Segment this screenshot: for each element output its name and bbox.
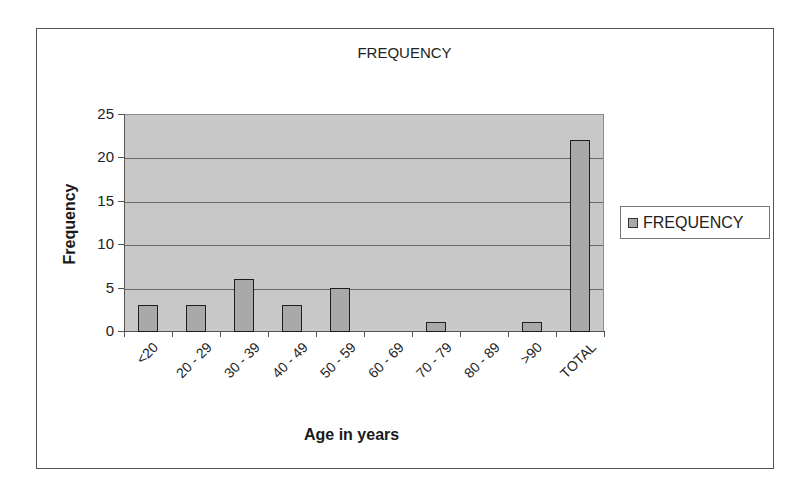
y-tick-label: 20 — [84, 149, 114, 165]
x-axis-title: Age in years — [304, 426, 399, 444]
bar — [426, 322, 446, 332]
x-tick — [316, 331, 317, 337]
y-tick — [118, 288, 124, 289]
bar — [138, 305, 158, 332]
x-tick — [604, 331, 605, 337]
x-tick — [220, 331, 221, 337]
y-tick-label: 25 — [84, 106, 114, 122]
gridline — [124, 202, 603, 203]
bar — [330, 288, 350, 332]
legend-label: FREQUENCY — [643, 214, 743, 232]
x-tick — [124, 331, 125, 337]
bar — [522, 322, 542, 332]
x-tick — [268, 331, 269, 337]
legend-swatch-icon — [628, 218, 638, 228]
legend: FREQUENCY — [620, 206, 770, 239]
bar — [570, 140, 590, 332]
gridline — [124, 289, 603, 290]
y-tick-label: 5 — [84, 280, 114, 296]
x-tick — [172, 331, 173, 337]
y-tick-label: 10 — [84, 236, 114, 252]
y-tick-label: 15 — [84, 193, 114, 209]
x-tick — [556, 331, 557, 337]
bar — [234, 279, 254, 332]
y-axis-line — [124, 114, 125, 332]
y-tick — [118, 114, 124, 115]
x-tick — [460, 331, 461, 337]
x-tick — [508, 331, 509, 337]
y-axis-title: Frequency — [61, 184, 79, 265]
bar — [282, 305, 302, 332]
gridline — [124, 158, 603, 159]
y-tick-label: 0 — [84, 323, 114, 339]
x-tick — [364, 331, 365, 337]
y-tick — [118, 157, 124, 158]
plot-area — [124, 114, 604, 331]
y-tick — [118, 244, 124, 245]
bar — [186, 305, 206, 332]
gridline — [124, 245, 603, 246]
x-tick — [412, 331, 413, 337]
chart-title: FREQUENCY — [0, 44, 809, 61]
y-tick — [118, 201, 124, 202]
